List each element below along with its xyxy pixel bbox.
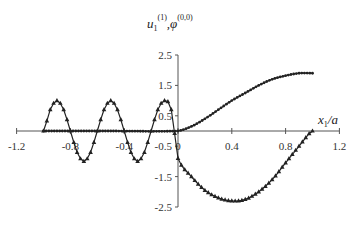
dot-marker (201, 119, 204, 122)
dot-marker (88, 130, 91, 133)
dot-marker (295, 72, 298, 75)
dot-marker (247, 90, 250, 93)
dot-marker (134, 130, 137, 133)
dot-marker (263, 81, 266, 84)
dot-marker (56, 130, 59, 133)
dot-marker (287, 74, 290, 77)
dot-marker (214, 110, 217, 113)
svg-text:x1/a: x1/a (317, 112, 338, 129)
dot-marker (171, 130, 174, 133)
dot-marker (311, 72, 314, 75)
dot-marker (306, 72, 309, 75)
dot-marker (268, 79, 271, 82)
dot-marker (112, 130, 115, 133)
triangle-marker (45, 118, 50, 122)
dot-marker (212, 112, 215, 115)
dot-marker (252, 87, 255, 90)
triangle-marker (176, 156, 181, 160)
y-axis-title: u1(1),φ(0,0) (147, 13, 193, 33)
triangle-marker (92, 140, 97, 144)
dot-marker (217, 108, 220, 111)
dot-marker (220, 106, 223, 109)
dot-marker (61, 130, 64, 133)
dot-marker (238, 95, 241, 98)
dot-marker (82, 130, 85, 133)
y-tick-label: 2.5 (158, 49, 172, 61)
dot-marker (160, 130, 163, 133)
dot-marker (77, 130, 80, 133)
dot-marker (136, 130, 139, 133)
dot-marker (115, 130, 118, 133)
dot-marker (228, 101, 231, 104)
triangle-marker (88, 150, 93, 154)
dot-marker (58, 130, 61, 133)
triangle-marker (65, 117, 70, 121)
triangle-marker (55, 98, 60, 102)
dot-marker (209, 114, 212, 117)
dot-marker (257, 84, 260, 87)
triangle-marker (152, 117, 157, 121)
dot-marker (233, 98, 236, 101)
dot-marker (255, 85, 258, 88)
dot-marker (117, 130, 120, 133)
dot-marker (271, 78, 274, 81)
dot-marker (144, 130, 147, 133)
dot-marker (179, 129, 182, 132)
dot-marker (198, 121, 201, 124)
dot-marker (284, 74, 287, 77)
dot-marker (177, 130, 180, 133)
dot-marker (204, 117, 207, 120)
dot-marker (125, 130, 128, 133)
dot-marker (187, 126, 190, 129)
y-tick-label: 0.5 (158, 110, 172, 122)
y-tick-label: -0.5 (155, 140, 173, 152)
dot-marker (74, 130, 77, 133)
dot-marker (222, 105, 225, 108)
dot-marker (123, 130, 126, 133)
dot-marker (42, 130, 45, 133)
y-tick-label: -1.5 (155, 171, 173, 183)
dot-marker (99, 130, 102, 133)
x-tick-label: -1.2 (8, 140, 25, 152)
dot-marker (50, 130, 53, 133)
triangle-marker (108, 98, 113, 102)
dot-marker (225, 103, 228, 106)
dot-marker (96, 130, 99, 133)
y-tick-label: -2.5 (155, 201, 173, 213)
dot-marker (158, 130, 161, 133)
x-axis-title: x1/a (317, 112, 338, 129)
dot-marker (260, 83, 263, 86)
dot-marker (193, 124, 196, 127)
dot-marker (174, 130, 177, 133)
dot-marker (66, 130, 69, 133)
dot-marker (155, 130, 158, 133)
svg-text:u1(1),φ(0,0): u1(1),φ(0,0) (147, 13, 193, 33)
x-tick-label: 1.2 (333, 140, 347, 152)
dot-marker (241, 93, 244, 96)
dot-marker (230, 99, 233, 102)
triangle-marker (145, 140, 150, 144)
dot-marker (190, 125, 193, 128)
dot-marker (169, 130, 172, 133)
x-tick-label: 0.4 (225, 140, 239, 152)
x-tick-label: 0.8 (279, 140, 293, 152)
dot-marker (80, 130, 83, 133)
dot-marker (150, 130, 153, 133)
dot-marker (244, 92, 247, 95)
dot-marker (182, 128, 185, 131)
dot-marker (69, 130, 72, 133)
dot-marker (276, 76, 279, 79)
dot-marker (308, 72, 311, 75)
dot-marker (236, 96, 239, 99)
dot-marker (107, 130, 110, 133)
dot-marker (206, 116, 209, 119)
dot-marker (101, 130, 104, 133)
dot-marker (91, 130, 94, 133)
dot-marker (47, 130, 50, 133)
dot-marker (292, 73, 295, 76)
dot-marker (273, 77, 276, 80)
dot-marker (290, 73, 293, 76)
dot-marker (53, 130, 56, 133)
dot-marker (303, 72, 306, 75)
dot-marker (142, 130, 145, 133)
